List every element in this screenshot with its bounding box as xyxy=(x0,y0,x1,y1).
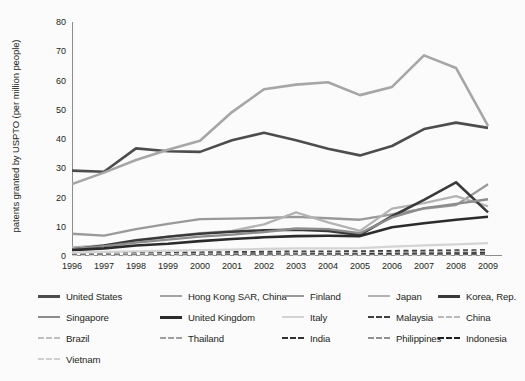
y-axis-label: patents granted by USPTO (per million pe… xyxy=(10,16,24,256)
legend-label: Japan xyxy=(396,291,422,302)
legend-label: Brazil xyxy=(66,333,89,344)
series-line-finland xyxy=(72,184,488,235)
legend-item-finland[interactable]: Finland xyxy=(282,286,341,306)
legend-item-brazil[interactable]: Brazil xyxy=(38,328,89,348)
legend-swatch-icon xyxy=(38,295,60,298)
series-line-united-states xyxy=(72,123,488,172)
legend-label: Italy xyxy=(310,312,327,323)
legend-label: China xyxy=(466,312,491,323)
legend-item-philippines[interactable]: Philippines xyxy=(368,328,441,348)
legend-label: Thailand xyxy=(188,333,224,344)
legend-label: Singapore xyxy=(66,312,109,323)
legend-label: Finland xyxy=(310,291,341,302)
plot-area xyxy=(72,18,510,256)
legend-row: SingaporeUnited KingdomItalyMalaysiaChin… xyxy=(38,307,518,327)
legend-swatch-icon xyxy=(160,337,182,339)
legend-item-vietnam[interactable]: Vietnam xyxy=(38,349,100,369)
x-tick-label: 2009 xyxy=(468,260,508,272)
legend-row: Vietnam xyxy=(38,349,518,369)
legend-label: Indonesia xyxy=(466,333,507,344)
legend-label: United States xyxy=(66,291,122,302)
legend-swatch-icon xyxy=(160,295,182,297)
legend-item-singapore[interactable]: Singapore xyxy=(38,307,109,327)
legend-item-japan[interactable]: Japan xyxy=(368,286,422,306)
legend-swatch-icon xyxy=(160,316,182,319)
legend-label: Malaysia xyxy=(396,312,433,323)
legend-item-italy[interactable]: Italy xyxy=(282,307,327,327)
legend-item-hong-kong-sar-china[interactable]: Hong Kong SAR, China xyxy=(160,286,287,306)
legend-swatch-icon xyxy=(282,316,304,318)
legend-swatch-icon xyxy=(438,316,460,318)
y-tick-label: 30 xyxy=(46,163,66,173)
legend-item-indonesia[interactable]: Indonesia xyxy=(438,328,507,348)
legend-swatch-icon xyxy=(438,295,460,298)
legend-label: Hong Kong SAR, China xyxy=(188,291,287,302)
legend-item-thailand[interactable]: Thailand xyxy=(160,328,224,348)
y-tick-label: 70 xyxy=(46,46,66,56)
y-tick-label: 40 xyxy=(46,134,66,144)
legend-label: India xyxy=(310,333,330,344)
legend-row: United StatesHong Kong SAR, ChinaFinland… xyxy=(38,286,518,306)
legend-swatch-icon xyxy=(282,295,304,297)
legend-swatch-icon xyxy=(282,337,304,339)
legend-label: Vietnam xyxy=(66,354,100,365)
chart-figure: patents granted by USPTO (per million pe… xyxy=(0,0,525,381)
y-tick-label: 80 xyxy=(46,17,66,27)
legend-swatch-icon xyxy=(38,316,60,318)
legend-label: United Kingdom xyxy=(188,312,255,323)
y-axis-tick-labels: 01020304050607080 xyxy=(40,0,66,270)
legend-swatch-icon xyxy=(38,337,60,339)
legend-item-korea-rep[interactable]: Korea, Rep. xyxy=(438,286,516,306)
legend-label: Philippines xyxy=(396,333,441,344)
series-lines xyxy=(72,55,488,256)
legend-item-india[interactable]: India xyxy=(282,328,330,348)
legend-item-malaysia[interactable]: Malaysia xyxy=(368,307,433,327)
legend-item-united-kingdom[interactable]: United Kingdom xyxy=(160,307,255,327)
legend-row: BrazilThailandIndiaPhilippinesIndonesia xyxy=(38,328,518,348)
series-line-korea-rep xyxy=(72,182,488,249)
legend-swatch-icon xyxy=(368,295,390,297)
line-chart-svg xyxy=(72,18,510,256)
legend-label: Korea, Rep. xyxy=(466,291,516,302)
legend-swatch-icon xyxy=(438,337,460,339)
y-tick-label: 10 xyxy=(46,222,66,232)
y-tick-label: 20 xyxy=(46,193,66,203)
y-tick-label: 50 xyxy=(46,105,66,115)
chart-legend: United StatesHong Kong SAR, ChinaFinland… xyxy=(38,286,518,376)
x-axis-tick-labels: 1996199719981999200020012002200320042005… xyxy=(72,260,510,276)
y-tick-label: 60 xyxy=(46,76,66,86)
legend-item-united-states[interactable]: United States xyxy=(38,286,122,306)
legend-swatch-icon xyxy=(368,316,390,318)
series-line-hong-kong-sar-china xyxy=(72,55,488,184)
legend-item-china[interactable]: China xyxy=(438,307,491,327)
legend-swatch-icon xyxy=(38,358,60,360)
legend-swatch-icon xyxy=(368,337,390,339)
